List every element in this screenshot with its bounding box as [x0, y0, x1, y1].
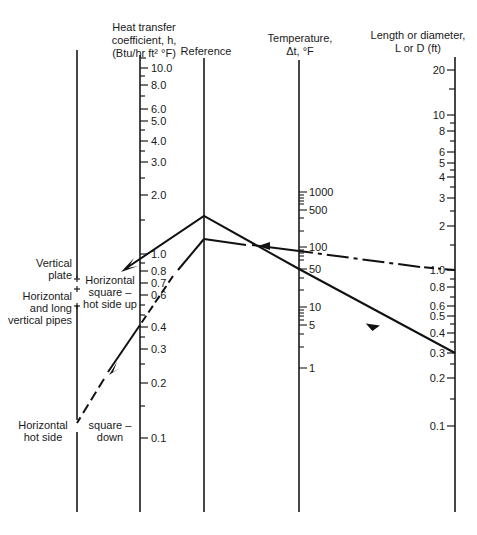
temperature-tick-label: 5: [309, 319, 315, 331]
length-tick-label: 20: [410, 64, 445, 76]
vertical-plate-line1: Vertical: [10, 257, 72, 269]
horizontal-pipes-line2: and long: [2, 302, 78, 314]
h-axis-ticks: [140, 58, 148, 438]
length-header-line1: Length or diameter,: [362, 29, 474, 42]
length-tick-label: 0.1: [410, 420, 445, 432]
length-tick-label: 3: [410, 192, 445, 204]
temperature-tick-label: 500: [309, 204, 327, 216]
temperature-axis-ticks: [299, 192, 307, 368]
temperature-tick-label: 1000: [309, 186, 333, 198]
length-tick-label: 0.8: [410, 281, 445, 293]
h-header-line1: Heat transfer: [96, 21, 192, 34]
solid-example-path: [125, 216, 455, 353]
solid-arrowhead-h: [121, 258, 138, 272]
square-up-line2: square –: [82, 286, 138, 298]
h-tick-label: 0.3: [151, 343, 166, 355]
solid-arrowhead-mid: [366, 322, 381, 331]
length-tick-label: 5: [410, 157, 445, 169]
horizontal-square-up-label: Horizontal square – hot side up: [82, 274, 138, 310]
square-up-line1: Horizontal: [82, 274, 138, 286]
length-header-line2: L or D (ft): [362, 42, 474, 55]
temperature-tick-label: 100: [309, 241, 327, 253]
h-tick-label: 4.0: [151, 135, 166, 147]
temperature-header-line2: Δt, °F: [258, 45, 342, 58]
length-tick-label: 1.0: [410, 264, 445, 276]
square-up-line3: hot side up: [82, 298, 138, 310]
h-tick-label: 8.0: [151, 79, 166, 91]
horizontal-hot-side-label: Horizontal hot side: [14, 419, 72, 443]
h-tick-label: 0.1: [151, 432, 166, 444]
h-tick-label: 1.0: [151, 248, 166, 260]
length-tick-label: 0.5: [410, 310, 445, 322]
temperature-tick-label: 10: [309, 301, 321, 313]
length-tick-label: 4: [410, 171, 445, 183]
horizontal-pipes-line3: vertical pipes: [2, 314, 78, 326]
h-tick-label: 0.4: [151, 321, 166, 333]
vertical-plate-label: Vertical plate: [10, 257, 72, 281]
dashed-example-path: [77, 239, 455, 423]
h-tick-label: 0.7: [151, 277, 166, 289]
length-tick-label: 0.2: [410, 372, 445, 384]
horizontal-pipes-line1: Horizontal: [2, 290, 78, 302]
length-tick-label: 0.4: [410, 327, 445, 339]
square-down-label: square – down: [86, 419, 134, 443]
temperature-header: Temperature, Δt, °F: [258, 32, 342, 58]
h-tick-label: 0.8: [151, 265, 166, 277]
temperature-header-line1: Temperature,: [258, 32, 342, 45]
reference-header: Reference: [176, 45, 236, 58]
h-tick-label: 10.0: [151, 62, 172, 74]
h-tick-label: 0.6: [151, 289, 166, 301]
length-tick-label: 2: [410, 220, 445, 232]
temperature-tick-label: 50: [309, 263, 321, 275]
vertical-plate-line2: plate: [10, 269, 72, 281]
length-axis-ticks: [447, 70, 455, 426]
length-header: Length or diameter, L or D (ft): [362, 29, 474, 55]
length-tick-label: 0.3: [410, 347, 445, 359]
h-tick-label: 5.0: [151, 115, 166, 127]
h-tick-label: 0.2: [151, 377, 166, 389]
horizontal-pipes-label: Horizontal and long vertical pipes: [2, 290, 78, 326]
hot-side-line2: hot side: [14, 431, 72, 443]
length-tick-label: 10: [410, 109, 445, 121]
h-tick-label: 2.0: [151, 189, 166, 201]
h-tick-label: 6.0: [151, 103, 166, 115]
hot-side-line1: Horizontal: [14, 419, 72, 431]
square-down-line2: down: [86, 431, 134, 443]
temperature-tick-label: 1: [309, 362, 315, 374]
length-tick-label: 8: [410, 125, 445, 137]
square-down-line1: square –: [86, 419, 134, 431]
h-tick-label: 3.0: [151, 156, 166, 168]
